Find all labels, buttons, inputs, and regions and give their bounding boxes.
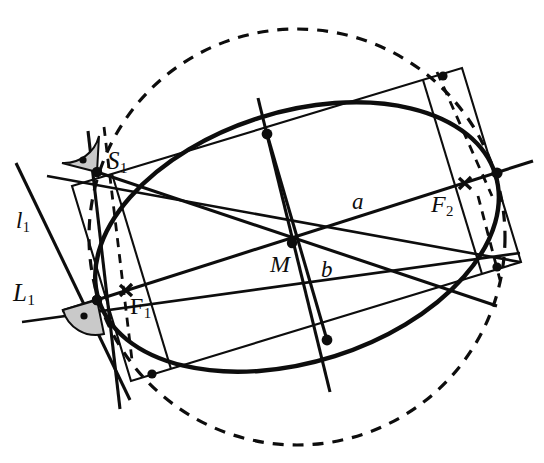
label-L1: L1	[13, 280, 35, 308]
point-center-M	[287, 238, 297, 248]
right-angle-marker-l1	[63, 300, 104, 335]
right-angle-marker-s1	[62, 136, 99, 172]
point-corner-upper-right	[438, 71, 447, 80]
point-corner-lower-left	[147, 369, 156, 378]
point-vertex-right	[491, 167, 502, 178]
point-vertex-left	[92, 295, 102, 305]
point-S1	[92, 167, 102, 177]
label-M: M	[270, 252, 290, 276]
label-a: a	[352, 190, 364, 213]
geometry-figure: S1 l1 L1 F1 F2 M a b	[0, 0, 544, 463]
point-corner-lower-right	[492, 262, 501, 271]
tangent-parallelogram	[72, 68, 521, 381]
diagram-canvas	[0, 0, 544, 463]
point-conjugate-top	[262, 129, 273, 140]
label-S1: S1	[107, 148, 128, 176]
label-F2: F2	[431, 192, 453, 219]
label-l1: l1	[16, 209, 30, 234]
point-conjugate-bottom	[322, 335, 333, 346]
label-F1: F1	[130, 294, 151, 321]
label-b: b	[321, 258, 333, 281]
